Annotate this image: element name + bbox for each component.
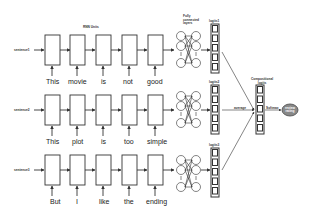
logits2-column: [211, 85, 219, 134]
word: This: [46, 78, 59, 85]
average-label: average: [234, 106, 246, 110]
word: This: [46, 138, 59, 145]
rnn-units-label: RNN Units: [83, 25, 99, 29]
fc-layer-3: [177, 156, 201, 192]
word: movie: [68, 78, 87, 85]
diagram-canvas: [0, 0, 310, 217]
sentence-label-3: sentence3: [14, 168, 30, 172]
word: I: [76, 198, 78, 205]
word: the: [124, 198, 134, 205]
word: is: [101, 138, 106, 145]
word: is: [101, 78, 106, 85]
word: plot: [72, 138, 83, 145]
word: like: [99, 198, 110, 205]
word: But: [50, 198, 61, 205]
logits1-column: [211, 24, 219, 73]
fc-layer-1: [177, 32, 201, 68]
fc-layer-2: [177, 92, 201, 128]
output-label: review rating: [284, 107, 296, 114]
logits3-label: logits3: [209, 143, 219, 147]
softmax-label: Softmax: [266, 106, 279, 110]
logits3-column: [211, 148, 219, 197]
logits1-label: logits1: [209, 19, 219, 23]
word: simple: [147, 138, 167, 145]
rnn-row-3: [34, 155, 174, 196]
sentence-label-1: sentence1: [14, 48, 30, 52]
compositional-logits-column: [256, 85, 264, 134]
logits2-label: logits2: [209, 80, 219, 84]
sentence-label-2: sentence2: [14, 108, 30, 112]
compositional-logits-label: Compositional logits: [250, 78, 274, 85]
word: too: [124, 138, 134, 145]
word: good: [147, 78, 163, 85]
rnn-row-1: [34, 35, 174, 76]
word: not: [123, 78, 133, 85]
fully-connected-label: Fully connected layers: [183, 15, 205, 26]
rnn-row-2: [34, 95, 174, 136]
word: ending: [146, 198, 167, 205]
